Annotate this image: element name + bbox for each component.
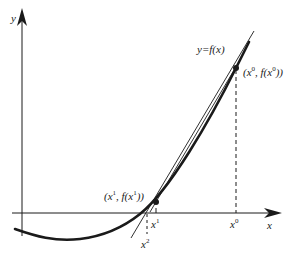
newton-secant-diagram: y x y=f(x) (x0, f(x0)) (x1, f(x1)) x1 x0… [0, 0, 291, 259]
tick-label-x0: x0 [230, 218, 238, 230]
point-x0-label: (x0, f(x0)) [243, 66, 283, 78]
point-x0-marker [233, 65, 239, 71]
secant-chord [150, 60, 240, 212]
point-x1-marker [153, 199, 159, 205]
tick-label-x2: x2 [141, 238, 149, 250]
label-part: )) [137, 190, 144, 202]
x-axis-label: x [267, 220, 272, 231]
function-curve [15, 42, 249, 240]
label-part: )) [276, 66, 283, 78]
tick-sup: 2 [146, 237, 150, 245]
label-part: (x [104, 190, 113, 202]
tick-sup: 1 [156, 217, 160, 225]
curve-label: y=f(x) [197, 44, 225, 55]
point-x1-label: (x1, f(x1)) [104, 190, 144, 202]
tick-sup: 0 [235, 217, 239, 225]
label-part: (x [243, 66, 252, 78]
y-axis-label: y [11, 13, 16, 24]
tick-label-x1: x1 [151, 218, 159, 230]
diagram-graphics [0, 0, 291, 259]
label-part: , f(x [255, 66, 272, 78]
label-part: , f(x [116, 190, 133, 202]
